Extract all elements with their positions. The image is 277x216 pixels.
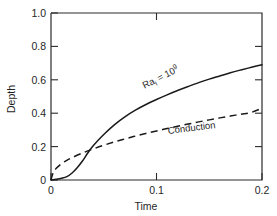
- y-axis-ticks: [51, 13, 58, 180]
- y-axis-right-ticks: [255, 46, 262, 146]
- x-axis-ticks: [51, 13, 262, 180]
- series-line-conduction: [51, 108, 262, 180]
- x-tick-label-0-2: 0.2: [255, 184, 270, 196]
- plot-frame: [51, 13, 262, 180]
- conduction-label: Conduction: [167, 119, 216, 136]
- rayleigh-label: Rai = 109: [140, 63, 181, 93]
- y-tick-label-0: 0: [40, 174, 46, 186]
- y-axis-title: Depth: [5, 85, 17, 113]
- x-tick-label-0-1: 0.1: [149, 184, 164, 196]
- y-tick-label-0-4: 0.4: [31, 107, 46, 119]
- y-tick-label-1-0: 1.0: [31, 7, 46, 19]
- y-tick-label-0-2: 0.2: [31, 141, 46, 153]
- svg-text:Rai = 109: Rai = 109: [140, 63, 181, 93]
- depth-vs-time-line-chart: 0 0.2 0.4 0.6 0.8 1.0 0 0.1 0.2 Time Dep…: [0, 0, 277, 216]
- y-tick-labels: 0 0.2 0.4 0.6 0.8 1.0: [31, 7, 46, 186]
- y-tick-label-0-8: 0.8: [31, 40, 46, 52]
- x-tick-label-0: 0: [48, 184, 54, 196]
- x-axis-title: Time: [135, 200, 158, 212]
- x-tick-labels: 0 0.1 0.2: [48, 184, 269, 196]
- axes-box: [51, 13, 262, 180]
- chart-figure: 0 0.2 0.4 0.6 0.8 1.0 0 0.1 0.2 Time Dep…: [0, 0, 277, 216]
- y-tick-label-0-6: 0.6: [31, 74, 46, 86]
